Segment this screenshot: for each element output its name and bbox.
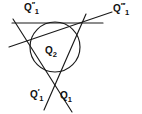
label-q1-double-prime: Q′′1 bbox=[24, 1, 39, 16]
label-q1: Q1 bbox=[60, 89, 72, 104]
label-subscript: 1 bbox=[39, 94, 43, 103]
label-subscript: 1 bbox=[68, 95, 72, 104]
label-subscript: 2 bbox=[53, 50, 57, 59]
label-base: Q bbox=[30, 89, 38, 100]
label-subscript: 1 bbox=[125, 8, 129, 17]
label-base: Q bbox=[24, 2, 32, 13]
label-q2: Q2 bbox=[45, 44, 57, 59]
geometry-figure: Q′′1 Q′′′1 Q2 Q′1 Q1 bbox=[0, 0, 142, 114]
label-subscript: 1 bbox=[35, 7, 39, 16]
oblique-rising-line bbox=[9, 12, 112, 47]
label-q1-triple-prime: Q′′′1 bbox=[113, 2, 129, 17]
label-base: Q bbox=[60, 90, 68, 101]
label-q1-prime: Q′1 bbox=[30, 88, 43, 103]
label-base: Q bbox=[113, 3, 121, 14]
label-base: Q bbox=[45, 45, 53, 56]
